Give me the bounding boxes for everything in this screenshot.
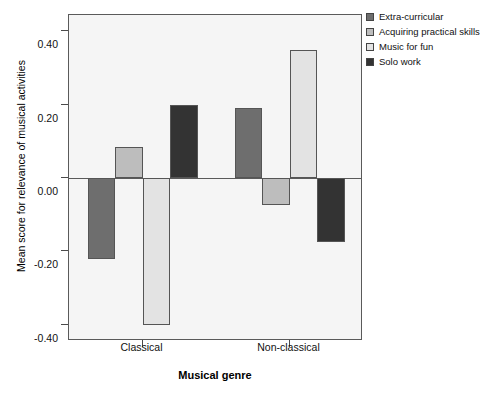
y-axis-tick [61, 30, 68, 31]
bar [290, 50, 318, 178]
bar [170, 105, 198, 178]
legend-item-label: Solo work [379, 57, 421, 67]
y-axis-tick [61, 177, 68, 178]
bar [235, 108, 263, 178]
y-axis-tick-labels: 0.400.200.00-0.20-0.40 [0, 14, 68, 340]
bar [143, 178, 171, 325]
bar [317, 178, 345, 242]
plot-panel [68, 14, 362, 340]
figure: Mean score for relevance of musical acti… [0, 0, 500, 396]
y-axis-tick-label: -0.40 [34, 332, 58, 344]
bar [262, 178, 290, 205]
legend-swatch-icon [366, 28, 374, 36]
y-axis-tick-label: 0.20 [38, 112, 58, 124]
y-axis-tick [61, 324, 68, 325]
x-axis-tick-label: Classical [120, 341, 162, 353]
legend-swatch-icon [366, 58, 374, 66]
legend-item-label: Music for fun [379, 42, 433, 52]
x-axis-tick-label: Non-classical [257, 341, 319, 353]
legend-item: Music for fun [366, 40, 498, 53]
legend: Extra-curricularAcquiring practical skil… [366, 10, 498, 70]
x-axis-title: Musical genre [0, 369, 430, 381]
bar [88, 178, 116, 259]
bar [115, 147, 143, 178]
y-axis-tick-label: 0.00 [38, 185, 58, 197]
legend-item-label: Acquiring practical skills [379, 27, 480, 37]
legend-swatch-icon [366, 13, 374, 21]
legend-swatch-icon [366, 43, 374, 51]
plot-area [69, 15, 361, 339]
legend-item: Extra-curricular [366, 10, 498, 23]
y-axis-tick [61, 104, 68, 105]
legend-item: Acquiring practical skills [366, 25, 498, 38]
y-axis-tick [61, 250, 68, 251]
legend-item-label: Extra-curricular [379, 12, 443, 22]
y-axis-tick-label: 0.40 [38, 38, 58, 50]
legend-item: Solo work [366, 55, 498, 68]
y-axis-tick-label: -0.20 [34, 258, 58, 270]
